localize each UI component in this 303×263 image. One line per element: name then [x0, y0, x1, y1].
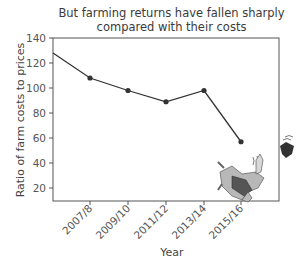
y-tick-label: 60: [33, 132, 46, 144]
falling-farmer-illustration: [218, 136, 294, 203]
y-tick-label: 140: [26, 32, 46, 44]
y-tick-label: 40: [33, 157, 46, 169]
y-tick-label: 100: [26, 82, 46, 94]
data-point: [201, 88, 206, 93]
x-tick-label: 2015/16: [206, 202, 246, 242]
x-axis-title: Year: [159, 246, 184, 259]
line-chart: 20406080100120140 2007/82009/102011/1220…: [0, 0, 303, 263]
y-tick-label: 80: [33, 107, 46, 119]
data-series: [53, 53, 244, 144]
y-axis: 20406080100120140: [26, 32, 53, 194]
x-axis: 2007/82009/102011/122013/142015/16: [60, 201, 246, 241]
y-tick-label: 120: [26, 57, 46, 69]
data-point: [125, 88, 130, 93]
data-point: [238, 139, 243, 144]
x-tick-label: 2007/8: [60, 202, 95, 237]
y-tick-label: 20: [33, 182, 46, 194]
y-axis-title: Ratio of farm costs to prices: [14, 42, 27, 197]
data-point: [163, 99, 168, 104]
x-tick-label: 2009/10: [93, 202, 132, 241]
x-tick-label: 2011/12: [131, 202, 170, 241]
data-point: [87, 75, 92, 80]
x-tick-label: 2013/14: [169, 202, 209, 242]
